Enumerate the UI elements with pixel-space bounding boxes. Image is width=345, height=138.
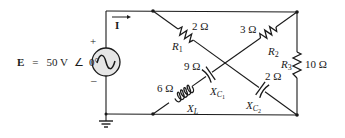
r1-value: 2 Ω xyxy=(192,20,208,32)
source-label: E = 50 V ∠ 0° xyxy=(17,52,99,69)
source-value: 50 V xyxy=(47,56,69,68)
diag2-seg1 xyxy=(276,12,297,27)
source-angle: 0° xyxy=(89,56,99,68)
xc1-name: XC1 xyxy=(209,85,225,100)
diag2-seg3 xyxy=(192,77,206,87)
ground-icon xyxy=(99,114,113,127)
circuit-diagram: I + – E = 50 V ∠ 0° 2 Ω R1 3 Ω R2 R3 10 … xyxy=(0,0,345,138)
diag2-seg4 xyxy=(153,103,169,114)
r2-name: R2 xyxy=(267,45,279,59)
capacitor-xc2 xyxy=(256,82,269,98)
diag2-seg2 xyxy=(212,38,261,72)
inductor-xl xyxy=(173,84,195,103)
xc2-value: 2 Ω xyxy=(265,70,281,82)
xc2-name: XC2 xyxy=(245,99,261,114)
source-minus-sign: – xyxy=(90,74,97,86)
source-equals: = xyxy=(32,56,38,68)
resistor-r2 xyxy=(258,24,278,42)
r3-name: R3 xyxy=(280,58,292,72)
diag1-seg1 xyxy=(153,11,178,29)
diag1-seg2 xyxy=(193,40,259,87)
xc1-value: 9 Ω xyxy=(184,60,200,72)
r2-value: 3 Ω xyxy=(240,23,256,35)
r1-name: R1 xyxy=(171,40,183,54)
xl-value: 6 Ω xyxy=(157,82,173,94)
current-label: I xyxy=(115,19,119,31)
source-angle-symbol: ∠ xyxy=(74,56,84,68)
capacitor-xc1 xyxy=(202,67,215,83)
source-symbol: E xyxy=(17,56,24,68)
source-plus-sign: + xyxy=(90,35,96,47)
diag1-seg3 xyxy=(265,92,297,115)
xl-name: XL xyxy=(186,102,199,116)
r3-value: 10 Ω xyxy=(305,58,327,70)
resistor-r3 xyxy=(293,52,301,78)
bottom-wire xyxy=(106,114,297,115)
top-wire xyxy=(106,11,297,12)
